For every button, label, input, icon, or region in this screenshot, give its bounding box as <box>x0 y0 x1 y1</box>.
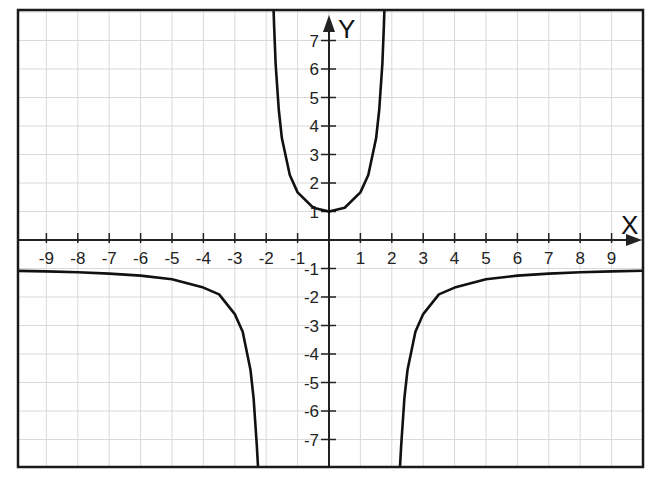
function-graph: -9-8-7-6-5-4-3-2-1123456789 -7-6-5-4-3-2… <box>0 0 651 482</box>
x-tick-label: 1 <box>356 249 365 268</box>
y-tick-label: -7 <box>304 431 319 450</box>
x-tick-label: -4 <box>196 249 211 268</box>
x-tick-label: -7 <box>102 249 117 268</box>
x-tick-label: -2 <box>259 249 274 268</box>
y-tick-label: 4 <box>310 117 319 136</box>
x-tick-label: 4 <box>450 249 459 268</box>
x-tick-label: 2 <box>387 249 396 268</box>
x-tick-label: 8 <box>575 249 584 268</box>
y-tick-label: 5 <box>310 89 319 108</box>
x-tick-label: 7 <box>544 249 553 268</box>
x-tick-label: -8 <box>70 249 85 268</box>
y-tick-label: -2 <box>304 288 319 307</box>
y-tick-label: 7 <box>310 32 319 51</box>
x-tick-label: -6 <box>133 249 148 268</box>
x-tick-label: -9 <box>39 249 54 268</box>
y-tick-label: 6 <box>310 60 319 79</box>
y-tick-label: -4 <box>304 345 319 364</box>
x-tick-label: 6 <box>513 249 522 268</box>
y-tick-label: -6 <box>304 402 319 421</box>
x-tick-label: 9 <box>607 249 616 268</box>
x-axis-title: X <box>621 210 638 240</box>
y-tick-label: -1 <box>304 260 319 279</box>
x-tick-label: -3 <box>227 249 242 268</box>
x-tick-label: 5 <box>481 249 490 268</box>
x-tick-label: 3 <box>418 249 427 268</box>
y-tick-label: 3 <box>310 146 319 165</box>
y-tick-label: -5 <box>304 374 319 393</box>
y-tick-label: 2 <box>310 174 319 193</box>
y-axis-title: Y <box>338 14 355 44</box>
y-tick-label: -3 <box>304 317 319 336</box>
x-tick-label: -5 <box>164 249 179 268</box>
